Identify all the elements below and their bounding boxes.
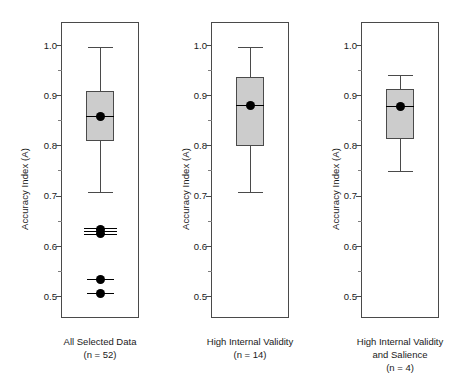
mean-marker-1 — [96, 112, 105, 121]
whisker-cap-upper-2 — [238, 47, 263, 48]
y-tick-minor-2-4 — [208, 271, 212, 272]
whisker-cap-upper-1 — [88, 47, 113, 48]
y-tick-major-1-4 — [56, 246, 62, 247]
y-tick-label-3-4: 0.6 — [329, 241, 357, 252]
y-tick-minor-3-0 — [358, 70, 362, 71]
y-tick-major-3-4 — [356, 246, 362, 247]
y-tick-major-1-5 — [56, 296, 62, 297]
y-tick-major-2-3 — [206, 196, 212, 197]
y-axis-title-3: Accuracy Index (A) — [330, 148, 341, 230]
y-tick-minor-2-3 — [208, 221, 212, 222]
y-tick-minor-2-1 — [208, 120, 212, 121]
y-tick-minor-1-2 — [58, 170, 62, 171]
y-tick-major-1-3 — [56, 196, 62, 197]
y-axis-title-2: Accuracy Index (A) — [180, 148, 191, 230]
y-tick-minor-1-1 — [58, 120, 62, 121]
y-tick-label-3-1: 0.9 — [329, 90, 357, 101]
box-plot-figure: Accuracy Index (A) 1.0 0.9 0.8 0.7 0.6 0… — [0, 0, 453, 378]
whisker-cap-lower-2 — [238, 192, 263, 193]
y-tick-label-1-0: 1.0 — [29, 40, 57, 51]
y-tick-label-2-5: 0.5 — [179, 291, 207, 302]
y-tick-major-1-0 — [56, 45, 62, 46]
outlier-marker-1-b — [96, 229, 105, 238]
whisker-upper-3 — [400, 75, 401, 89]
mean-marker-3 — [396, 102, 405, 111]
y-axis-title-1: Accuracy Index (A) — [19, 148, 30, 230]
y-tick-major-2-0 — [206, 45, 212, 46]
box-quartiles-3 — [386, 89, 414, 139]
y-tick-major-2-4 — [206, 246, 212, 247]
y-tick-label-1-3: 0.7 — [29, 190, 57, 201]
y-tick-label-3-2: 0.8 — [329, 140, 357, 151]
y-tick-label-3-3: 0.7 — [329, 190, 357, 201]
outlier-marker-1-d — [96, 289, 105, 298]
y-tick-label-2-1: 0.9 — [179, 90, 207, 101]
whisker-lower-1 — [100, 140, 101, 192]
y-tick-major-3-2 — [356, 145, 362, 146]
y-tick-major-3-5 — [356, 296, 362, 297]
whisker-cap-lower-3 — [388, 171, 413, 172]
y-tick-minor-3-1 — [358, 120, 362, 121]
panel-caption-1-line2: (n = 52) — [20, 348, 180, 361]
y-tick-label-3-0: 1.0 — [329, 40, 357, 51]
whisker-lower-3 — [400, 139, 401, 171]
box-quartiles-2 — [236, 77, 264, 146]
whisker-upper-2 — [250, 47, 251, 77]
y-tick-label-2-0: 1.0 — [179, 40, 207, 51]
y-tick-label-1-4: 0.6 — [29, 241, 57, 252]
y-tick-label-2-4: 0.6 — [179, 241, 207, 252]
y-tick-label-1-2: 0.8 — [29, 140, 57, 151]
y-tick-label-2-2: 0.8 — [179, 140, 207, 151]
panel-caption-3-line1: High Internal Validity — [320, 335, 453, 348]
y-tick-minor-1-3 — [58, 221, 62, 222]
y-tick-major-1-2 — [56, 145, 62, 146]
panel-caption-3-line3: (n = 4) — [320, 361, 453, 374]
y-tick-major-3-0 — [356, 45, 362, 46]
y-tick-minor-3-3 — [358, 221, 362, 222]
y-tick-minor-2-0 — [208, 70, 212, 71]
panel-caption-3-line2: and Salience — [320, 348, 453, 361]
y-tick-minor-1-0 — [58, 70, 62, 71]
y-tick-major-1-1 — [56, 95, 62, 96]
mean-marker-2 — [246, 101, 255, 110]
y-tick-minor-2-2 — [208, 170, 212, 171]
outlier-marker-1-c — [96, 275, 105, 284]
y-tick-label-1-1: 0.9 — [29, 90, 57, 101]
y-tick-major-3-1 — [356, 95, 362, 96]
y-tick-label-1-5: 0.5 — [29, 291, 57, 302]
y-tick-minor-1-4 — [58, 271, 62, 272]
whisker-cap-upper-3 — [388, 75, 413, 76]
y-tick-major-3-3 — [356, 196, 362, 197]
y-tick-minor-3-2 — [358, 170, 362, 171]
panel-caption-2: High Internal Validity (n = 14) — [170, 335, 330, 361]
panel-caption-2-line2: (n = 14) — [170, 348, 330, 361]
panel-caption-2-line1: High Internal Validity — [170, 335, 330, 348]
y-tick-major-2-2 — [206, 145, 212, 146]
y-tick-label-3-5: 0.5 — [329, 291, 357, 302]
y-tick-label-2-3: 0.7 — [179, 190, 207, 201]
panel-caption-3: High Internal Validity and Salience (n =… — [320, 335, 453, 374]
whisker-cap-lower-1 — [88, 192, 113, 193]
panel-caption-1-line1: All Selected Data — [20, 335, 180, 348]
y-tick-minor-3-4 — [358, 271, 362, 272]
whisker-upper-1 — [100, 47, 101, 91]
y-tick-major-2-5 — [206, 296, 212, 297]
panel-caption-1: All Selected Data (n = 52) — [20, 335, 180, 361]
whisker-lower-2 — [250, 146, 251, 192]
y-tick-major-2-1 — [206, 95, 212, 96]
